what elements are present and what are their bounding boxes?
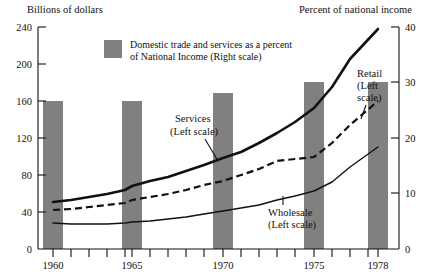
- left-tick-80: 80: [22, 170, 33, 181]
- right-tick-20: 20: [405, 133, 416, 144]
- legend-swatch: [104, 40, 122, 58]
- legend-label-line2: of National Income (Right scale): [130, 51, 262, 63]
- bar-1970: [213, 93, 233, 249]
- right-axis-title: Percent of national income: [299, 4, 412, 15]
- wholesale-label-line1: Wholesale: [268, 207, 313, 218]
- x-tick-labels: 1960 1965 1970 1975 1978: [43, 260, 389, 271]
- left-tick-40: 40: [22, 207, 33, 218]
- left-tick-240: 240: [16, 22, 32, 33]
- wholesale-label-line2: (Left scale): [268, 219, 317, 231]
- retail-label-line3: scale): [357, 92, 382, 104]
- retail-label-line2: (Left: [357, 80, 378, 92]
- x-tick-1960: 1960: [43, 260, 64, 271]
- left-tick-200: 200: [16, 59, 32, 70]
- chart-svg: Billions of dollars Percent of national …: [0, 0, 435, 272]
- services-label-line1: Services: [175, 113, 211, 124]
- right-tick-labels: 40 30 20 10 0: [405, 22, 416, 255]
- bar-1965: [122, 101, 142, 249]
- right-tick-10: 10: [405, 188, 416, 199]
- x-axis: [38, 249, 399, 257]
- x-tick-1970: 1970: [213, 260, 234, 271]
- left-axis-title: Billions of dollars: [27, 4, 103, 15]
- legend-label-line1: Domestic trade and services as a percent: [130, 39, 292, 50]
- right-tick-0: 0: [405, 244, 410, 255]
- left-tick-0: 0: [27, 244, 32, 255]
- left-tick-labels: 240 200 160 120 80 40 0: [16, 22, 32, 255]
- services-annotation: Services (Left scale): [170, 113, 219, 161]
- x-tick-1965: 1965: [122, 260, 143, 271]
- left-tick-160: 160: [16, 96, 32, 107]
- x-tick-1978: 1978: [368, 260, 389, 271]
- legend: Domestic trade and services as a percent…: [104, 39, 292, 63]
- right-tick-40: 40: [405, 22, 416, 33]
- x-tick-1975: 1975: [304, 260, 325, 271]
- right-tick-30: 30: [405, 77, 416, 88]
- retail-label-line1: Retail: [357, 68, 382, 79]
- right-axis: [391, 27, 399, 249]
- chart-container: Billions of dollars Percent of national …: [0, 0, 435, 272]
- left-tick-120: 120: [16, 133, 32, 144]
- services-label-line2: (Left scale): [170, 126, 219, 138]
